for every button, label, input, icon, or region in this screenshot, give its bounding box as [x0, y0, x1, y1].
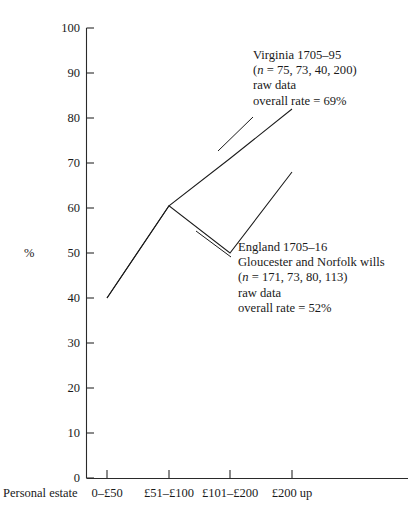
- y-tick-label-90: 90: [46, 67, 80, 80]
- y-tick-label-10: 10: [46, 427, 80, 440]
- annotation-england-line2: Gloucester and Norfolk wills: [238, 255, 385, 270]
- annotation-virginia: Virginia 1705–95 (n = 75, 73, 40, 200) r…: [253, 48, 357, 109]
- annotation-england-line3: (n = 171, 73, 80, 113): [238, 270, 385, 285]
- chart-figure: 100 90 80 70 60 50 40 30 20 10 0 % 0–£50…: [0, 0, 420, 522]
- leader-line-virginia: [218, 117, 253, 151]
- y-tick-label-30: 30: [46, 337, 80, 350]
- x-tick-label-3: £200 up: [250, 487, 334, 500]
- annotation-virginia-line2: (n = 75, 73, 40, 200): [253, 63, 357, 78]
- annotation-virginia-line4: overall rate = 69%: [253, 94, 357, 109]
- annotation-england-line3-suffix: = 171, 73, 80, 113): [249, 270, 348, 284]
- annotation-england: England 1705–16 Gloucester and Norfolk w…: [238, 240, 385, 316]
- annotation-england-line4: raw data: [238, 286, 385, 301]
- y-tick-label-60: 60: [46, 202, 80, 215]
- y-tick-label-50: 50: [46, 247, 80, 260]
- y-tick-label-70: 70: [46, 157, 80, 170]
- x-tick-marks: [107, 470, 292, 479]
- y-tick-label-40: 40: [46, 292, 80, 305]
- leader-line-england: [196, 231, 231, 257]
- y-tick-label-0: 0: [46, 472, 80, 485]
- annotation-england-line1: England 1705–16: [238, 240, 385, 255]
- annotation-virginia-line1: Virginia 1705–95: [253, 48, 357, 63]
- y-tick-label-20: 20: [46, 382, 80, 395]
- annotation-england-line5: overall rate = 52%: [238, 301, 385, 316]
- annotation-virginia-line2-suffix: = 75, 73, 40, 200): [264, 63, 357, 77]
- y-tick-marks: [87, 28, 95, 478]
- annotation-virginia-line3: raw data: [253, 78, 357, 93]
- y-tick-label-100: 100: [46, 22, 80, 35]
- y-tick-label-80: 80: [46, 112, 80, 125]
- y-axis-label: %: [24, 247, 34, 260]
- x-axis-caption: Personal estate: [3, 487, 78, 500]
